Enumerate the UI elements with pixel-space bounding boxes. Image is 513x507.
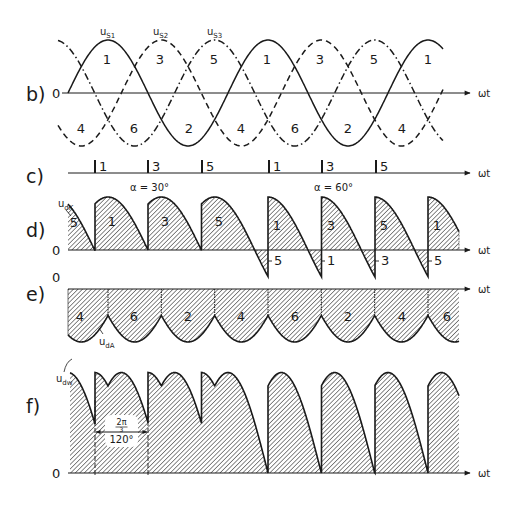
negative-segment-labels: 5135 [268, 253, 442, 268]
thyristor-number-lower: 4 [237, 121, 245, 136]
panel-c-firing-pulses: c) ωt 135135 α = 30°α = 60° [26, 159, 490, 193]
cathode-segment-number: 3 [327, 218, 335, 233]
cathode-segment-number: 5 [215, 214, 223, 229]
thyristor-number-lower: 2 [344, 121, 352, 136]
thyristor-number-lower: 6 [130, 121, 138, 136]
cathode-segment-number: 3 [161, 214, 169, 229]
firing-pulse-label: 3 [326, 159, 334, 174]
firing-angle-annotations: α = 30°α = 60° [130, 182, 353, 193]
cathode-segment-number: 5 [380, 218, 388, 233]
thyristor-number-upper: 3 [156, 52, 164, 67]
panel-e-anode-voltage: e) 0 ωt udA 46246246 [26, 270, 490, 350]
panel-f-wt-label: ωt [478, 468, 490, 479]
firing-pulse-label: 3 [152, 159, 160, 174]
panel-d-zero-label: 0 [52, 243, 60, 258]
upper-thyristor-labels: 1351351 [103, 52, 432, 67]
thyristor-number-lower: 6 [291, 121, 299, 136]
panel-e-wt-label: ωt [478, 284, 490, 295]
curve-label-us1: uS1 [100, 26, 115, 40]
anode-segment-number: 6 [130, 309, 138, 324]
negative-segment-number: 5 [434, 253, 442, 268]
cathode-segment-number: 5 [70, 215, 78, 230]
thyristor-number-upper: 1 [103, 52, 111, 67]
curve-label-us3: uS3 [207, 26, 222, 40]
thyristor-number-lower: 2 [185, 121, 193, 136]
anode-segment-number: 6 [291, 309, 299, 324]
panel-f-output-voltage: f) 0 ωt udw 2π3120° [26, 359, 490, 481]
panel-c-label: c) [26, 165, 44, 187]
thyristor-number-lower: 4 [77, 121, 85, 136]
cathode-segment-number: 1 [433, 218, 441, 233]
svg-text:udK: udK [58, 198, 74, 212]
negative-segment-number: 5 [274, 253, 282, 268]
firing-pulse-label: 1 [99, 159, 107, 174]
panel-e-zero-label: 0 [52, 270, 60, 285]
cathode-segment-number: 1 [108, 214, 116, 229]
anode-segment-number: 2 [344, 309, 352, 324]
panel-d-wt-label: ωt [478, 245, 490, 256]
anode-segment-number: 4 [76, 309, 84, 324]
thyristor-number-upper: 5 [210, 52, 218, 67]
panel-d-label: d) [26, 219, 45, 241]
anode-segment-number: 2 [184, 309, 192, 324]
phase-voltage-labels: uS1uS2uS3 [100, 26, 222, 40]
thyristor-number-upper: 1 [263, 52, 271, 67]
firing-pulse-ticks: 135135 [95, 159, 388, 174]
panel-f-label: f) [26, 395, 40, 417]
anode-segment-number: 4 [398, 309, 406, 324]
dimension-fraction-denominator: 3 [120, 426, 124, 433]
panel-b-wt-label: ωt [478, 88, 490, 99]
udA-label: udA [99, 328, 115, 350]
panel-b-phase-voltages: b) 0 ωt uS1uS2uS3 1351351 4624624 [26, 26, 490, 146]
negative-segment-number: 3 [381, 253, 389, 268]
panel-e-label: e) [26, 283, 45, 305]
panel-b-zero-label: 0 [52, 86, 60, 101]
firing-pulse-label: 1 [273, 159, 281, 174]
firing-angle-label: α = 30° [130, 182, 169, 193]
svg-text:udA: udA [99, 336, 115, 350]
cathode-voltage-hatched-area [68, 197, 459, 277]
dimension-degrees: 120° [109, 434, 133, 445]
panel-f-zero-label: 0 [52, 466, 60, 481]
firing-pulse-label: 5 [206, 159, 214, 174]
thyristor-rectifier-waveform-diagram: b) 0 ωt uS1uS2uS3 1351351 4624624 c) ωt … [0, 0, 513, 507]
anode-segment-number: 4 [237, 309, 245, 324]
thyristor-number-upper: 3 [316, 52, 324, 67]
anode-segment-number: 6 [443, 309, 451, 324]
panel-d-cathode-voltage: d) 0 ωt udK 51351351 5135 [26, 197, 490, 277]
lower-thyristor-labels: 4624624 [77, 121, 406, 136]
negative-segment-number: 1 [327, 253, 335, 268]
panel-c-wt-label: ωt [478, 168, 490, 179]
thyristor-number-upper: 1 [424, 52, 432, 67]
firing-pulse-label: 5 [380, 159, 388, 174]
panel-b-label: b) [26, 83, 45, 105]
thyristor-number-upper: 5 [370, 52, 378, 67]
curve-label-us2: uS2 [153, 26, 168, 40]
firing-angle-label: α = 60° [314, 182, 353, 193]
thyristor-number-lower: 4 [398, 121, 406, 136]
cathode-segment-number: 1 [273, 218, 281, 233]
